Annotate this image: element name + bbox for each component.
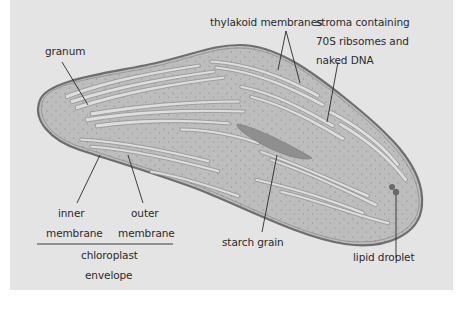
label-thylakoid-membranes: thylakoid membranes <box>210 17 322 28</box>
label-chloroplast-envelope-line1: chloroplast <box>81 250 138 261</box>
label-stroma-line1: stroma containing <box>316 17 410 28</box>
label-outer-membrane-line2: membrane <box>118 228 175 239</box>
label-starch-grain: starch grain <box>222 237 284 248</box>
label-inner-membrane-line1: inner <box>58 208 85 219</box>
label-granum: granum <box>45 46 85 57</box>
lipid-droplet <box>393 189 399 195</box>
label-outer-membrane-line1: outer <box>131 208 158 219</box>
lipid-droplet <box>389 184 395 190</box>
label-inner-membrane-line2: membrane <box>46 228 103 239</box>
label-stroma-line2: 70S ribsomes and <box>316 36 409 47</box>
label-lipid-droplet: lipid droplet <box>353 252 414 263</box>
label-chloroplast-envelope-line2: envelope <box>85 270 132 281</box>
label-stroma-line3: naked DNA <box>316 55 373 66</box>
